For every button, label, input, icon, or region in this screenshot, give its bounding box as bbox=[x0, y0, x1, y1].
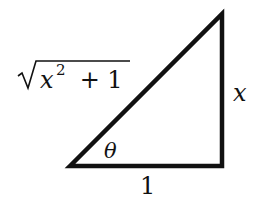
hypotenuse-label: x 2 + 1 bbox=[18, 61, 130, 94]
adjacent-side-label: 1 bbox=[140, 172, 155, 200]
right-triangle-diagram: x 2 + 1 x θ 1 bbox=[0, 0, 257, 203]
opposite-side-label: x bbox=[233, 79, 247, 107]
hypotenuse-variable: x bbox=[40, 66, 54, 94]
hypotenuse-exponent: 2 bbox=[56, 61, 66, 79]
hypotenuse-rest: + 1 bbox=[72, 66, 123, 94]
angle-label: θ bbox=[104, 139, 117, 163]
